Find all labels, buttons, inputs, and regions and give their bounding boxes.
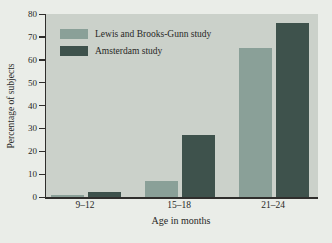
x-category-label-15–18: 15–18 <box>149 200 209 211</box>
legend-item-lewis: Lewis and Brooks-Gunn study <box>60 28 211 39</box>
legend-label-amsterdam: Amsterdam study <box>95 46 162 56</box>
bar-amsterdam-15–18 <box>182 135 215 197</box>
y-tick-label-60: 60 <box>12 55 37 65</box>
y-tick-80 <box>39 14 46 15</box>
y-tick-label-0: 0 <box>12 192 37 202</box>
legend: Lewis and Brooks-Gunn study Amsterdam st… <box>60 28 211 62</box>
legend-swatch-lewis <box>60 29 88 39</box>
y-tick-20 <box>39 151 46 152</box>
legend-swatch-amsterdam <box>60 46 88 56</box>
plot-area: Lewis and Brooks-Gunn study Amsterdam st… <box>45 14 318 199</box>
y-tick-label-80: 80 <box>12 9 37 19</box>
y-tick-label-70: 70 <box>12 32 37 42</box>
figure: Percentage of subjects Lewis and Brooks-… <box>0 0 332 243</box>
y-tick-label-30: 30 <box>12 123 37 133</box>
bar-amsterdam-9–12 <box>88 192 121 197</box>
y-tick-40 <box>39 105 46 106</box>
x-category-label-9–12: 9–12 <box>55 200 115 211</box>
legend-label-lewis: Lewis and Brooks-Gunn study <box>95 29 211 39</box>
x-category-label-21–24: 21–24 <box>243 200 303 211</box>
y-tick-label-10: 10 <box>12 169 37 179</box>
bar-lewis-21–24 <box>239 48 272 197</box>
x-axis-title: Age in months <box>81 215 281 226</box>
bar-lewis-15–18 <box>145 181 178 197</box>
legend-item-amsterdam: Amsterdam study <box>60 45 211 56</box>
y-tick-label-20: 20 <box>12 146 37 156</box>
y-tick-30 <box>39 128 46 129</box>
bar-amsterdam-21–24 <box>276 23 309 197</box>
y-tick-60 <box>39 59 46 60</box>
y-tick-0 <box>39 197 46 198</box>
y-tick-label-50: 50 <box>12 78 37 88</box>
bar-lewis-9–12 <box>51 195 84 197</box>
y-tick-label-40: 40 <box>12 101 37 111</box>
y-tick-70 <box>39 36 46 37</box>
y-tick-50 <box>39 82 46 83</box>
y-tick-10 <box>39 174 46 175</box>
